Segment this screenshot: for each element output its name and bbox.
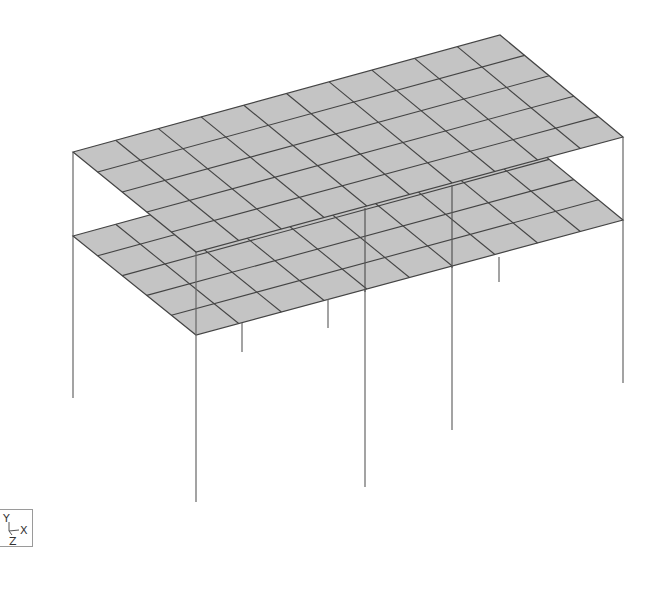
x-axis-label: X: [20, 524, 28, 537]
z-axis-label: Z: [9, 535, 17, 548]
3d-model-viewport[interactable]: [0, 0, 648, 595]
axis-triad: Y X Z: [0, 509, 33, 547]
structural-model-canvas[interactable]: [0, 0, 648, 595]
axis-triad-icon: Y X Z: [0, 510, 33, 548]
